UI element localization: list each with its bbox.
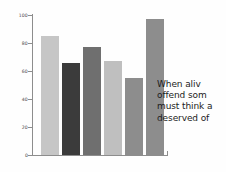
annotation-line-1: When aliv [157, 79, 226, 90]
bar-2 [62, 63, 80, 155]
annotation-line-4: deserved of [157, 113, 226, 124]
annotation-text-block: When alivoffend sommust think adeserved … [157, 79, 226, 124]
bar-chart-figure: 020406080100 When alivoffend sommust thi… [0, 0, 226, 172]
annotation-line-3: must think a [157, 101, 226, 112]
bar-1 [41, 36, 59, 155]
bar-3 [83, 47, 101, 155]
bar-4 [104, 61, 122, 155]
annotation-line-2: offend som [157, 90, 226, 101]
bar-5 [125, 78, 143, 155]
